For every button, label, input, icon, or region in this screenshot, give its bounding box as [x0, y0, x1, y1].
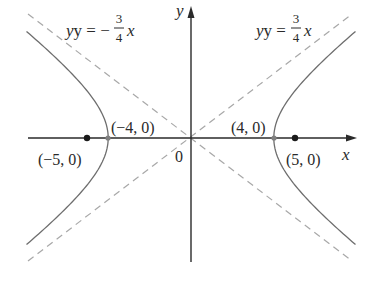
origin-label: 0	[175, 148, 183, 165]
svg-text:3: 3	[293, 11, 300, 26]
x-axis-arrow-icon	[346, 135, 357, 142]
svg-text:yy =: yy =	[254, 21, 286, 40]
y-axis-arrow-icon	[188, 6, 195, 18]
vertex-right	[271, 135, 276, 140]
focus-right	[292, 135, 298, 141]
asymptote-negative-equation: yy = − 3 4 x	[64, 11, 135, 45]
svg-text:x: x	[126, 21, 135, 40]
vertex-left-label: (−4, 0)	[111, 119, 155, 137]
svg-text:x: x	[303, 21, 312, 40]
vertex-left	[105, 135, 110, 140]
focus-left	[84, 135, 90, 141]
svg-text:3: 3	[116, 11, 123, 26]
svg-text:4: 4	[116, 30, 123, 45]
hyperbola-diagram: y x 0 (−4, 0) (4, 0) (−5, 0) (5, 0) yy =…	[0, 0, 383, 286]
svg-text:4: 4	[293, 30, 300, 45]
asymptote-positive-equation: yy = 3 4 x	[254, 11, 312, 45]
y-axis-label: y	[174, 1, 184, 20]
x-axis-label: x	[341, 145, 350, 164]
vertex-right-label: (4, 0)	[231, 119, 266, 137]
svg-text:yy = −: yy = −	[64, 21, 110, 40]
focus-left-label: (−5, 0)	[38, 151, 82, 169]
focus-right-label: (5, 0)	[286, 151, 321, 169]
